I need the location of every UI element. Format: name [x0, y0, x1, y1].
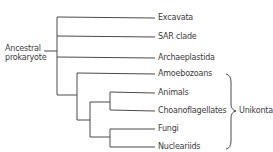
root-label-ancestral: Ancestral — [5, 44, 41, 53]
branch-sar — [57, 36, 155, 37]
taxon-label: Excavata — [158, 13, 193, 22]
taxon-label: Amoebozoans — [158, 69, 212, 78]
taxon-label: SAR clade — [158, 32, 197, 41]
branch-animals — [110, 92, 155, 93]
taxon-label: Animals — [158, 88, 188, 97]
group-label-unikonta: Unikonta — [239, 106, 273, 115]
phylogenetic-tree — [0, 0, 273, 152]
taxon-label: Nucleariids — [158, 142, 200, 151]
taxon-label: Choanoflagellates — [158, 106, 227, 115]
branch-archaeplastida — [57, 57, 155, 58]
branch-excavata — [57, 17, 155, 18]
taxon-label: Fungi — [158, 124, 179, 133]
unikonta-brace — [226, 74, 236, 149]
root-label-prokaryote: prokaryote — [5, 53, 46, 62]
taxon-label: Archaeplastida — [158, 53, 215, 62]
branch-choanoflagellates — [110, 110, 155, 111]
branch-amoebozoans — [77, 73, 155, 74]
